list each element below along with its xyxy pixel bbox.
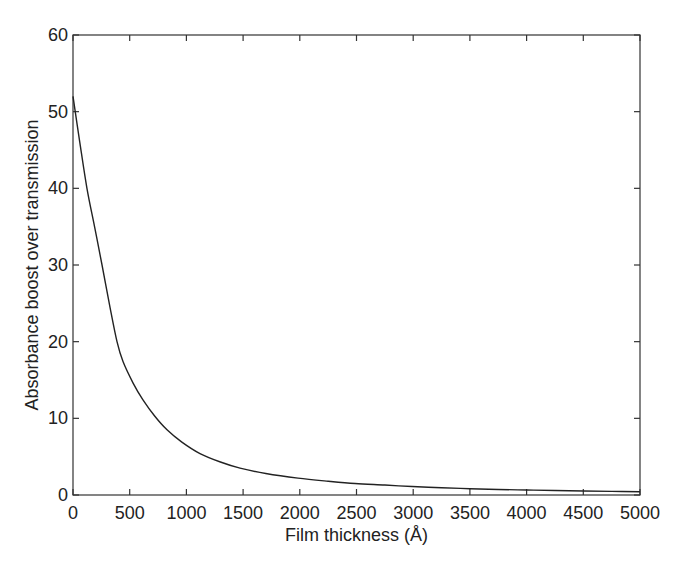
x-tick-label: 5000 bbox=[620, 503, 660, 523]
y-tick-label: 30 bbox=[48, 255, 68, 275]
x-tick-label: 1500 bbox=[223, 503, 263, 523]
y-tick-label: 20 bbox=[48, 332, 68, 352]
line-chart: 0500100015002000250030003500400045005000… bbox=[0, 0, 682, 572]
x-tick-label: 2500 bbox=[336, 503, 376, 523]
x-tick-label: 500 bbox=[115, 503, 145, 523]
x-tick-label: 3000 bbox=[393, 503, 433, 523]
y-tick-label: 40 bbox=[48, 178, 68, 198]
y-tick-label: 10 bbox=[48, 408, 68, 428]
x-axis-label: Film thickness (Å) bbox=[285, 525, 428, 545]
x-tick-label: 4500 bbox=[563, 503, 603, 523]
x-tick-label: 1000 bbox=[166, 503, 206, 523]
y-tick-label: 0 bbox=[58, 485, 68, 505]
x-axis-ticks: 0500100015002000250030003500400045005000 bbox=[68, 35, 660, 523]
y-tick-label: 50 bbox=[48, 102, 68, 122]
series-line-0 bbox=[73, 96, 640, 491]
plot-frame bbox=[73, 35, 640, 495]
plot-area: 0500100015002000250030003500400045005000… bbox=[48, 25, 660, 523]
x-tick-label: 0 bbox=[68, 503, 78, 523]
y-axis-label: Absorbance boost over transmission bbox=[22, 119, 42, 410]
y-axis-ticks: 0102030405060 bbox=[48, 25, 640, 505]
y-tick-label: 60 bbox=[48, 25, 68, 45]
x-tick-label: 3500 bbox=[450, 503, 490, 523]
x-tick-label: 4000 bbox=[507, 503, 547, 523]
x-tick-label: 2000 bbox=[280, 503, 320, 523]
series-group bbox=[73, 96, 640, 491]
